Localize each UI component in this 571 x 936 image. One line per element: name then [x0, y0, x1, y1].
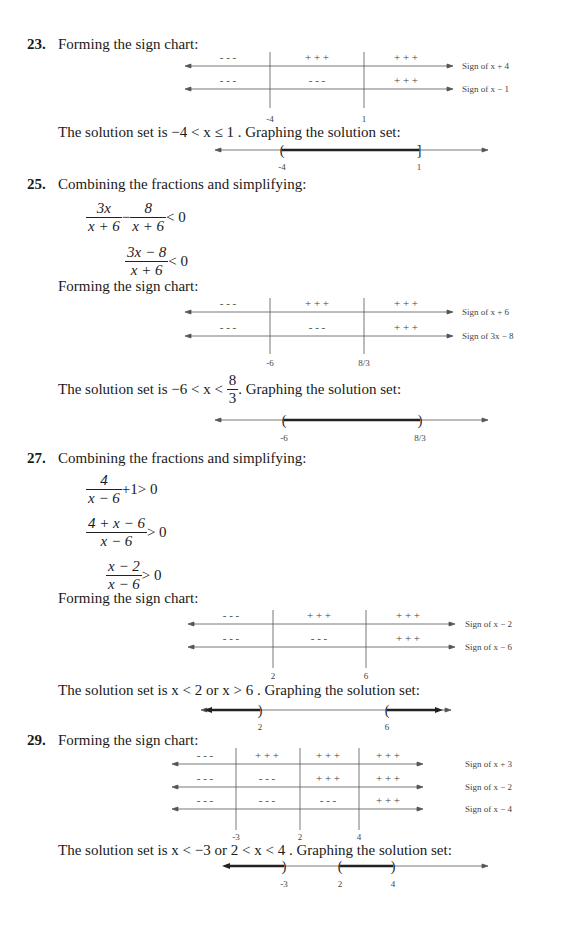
solution-graph-27: )( 2 6 — [200, 700, 500, 736]
svg-text:- - -: - - - — [223, 632, 240, 644]
svg-text:Sign of x − 2: Sign of x − 2 — [465, 619, 512, 629]
problem-25-solution: The solution set is −6 < x < 83. Graphin… — [58, 372, 401, 407]
svg-text:8/3: 8/3 — [414, 433, 426, 443]
problem-29-solution: The solution set is x < −3 or 2 < x < 4 … — [58, 842, 452, 859]
problem-number-23: 23. — [27, 36, 46, 53]
svg-text:- - -: - - - — [259, 794, 276, 806]
sign-cell: - - - — [309, 74, 326, 86]
svg-text:Sign of x − 2: Sign of x − 2 — [465, 782, 512, 792]
problem-27-intro: Combining the fractions and simplifying: — [58, 450, 306, 467]
svg-text:+ + +: + + + — [376, 772, 400, 784]
sign-cell: + + + — [394, 74, 418, 86]
svg-text:+ + +: + + + — [307, 609, 331, 621]
problem-27-solution: The solution set is x < 2 or x > 6 . Gra… — [58, 682, 420, 699]
svg-text:- - -: - - - — [309, 321, 326, 333]
sign-chart-23: - - - + + + + + + - - - - - - + + + -4 1… — [160, 48, 540, 124]
svg-text:): ) — [258, 703, 263, 719]
row-label: Sign of x − 1 — [462, 84, 509, 94]
problem-25-chart-intro: Forming the sign chart: — [58, 278, 198, 295]
svg-text:- - -: - - - — [197, 772, 214, 784]
problem-number-29: 29. — [27, 732, 46, 749]
svg-text:4: 4 — [391, 879, 396, 889]
problem-25-intro: Combining the fractions and simplifying: — [58, 176, 306, 193]
svg-text:+ + +: + + + — [396, 632, 420, 644]
row-label: Sign of x + 4 — [462, 61, 510, 71]
critical-point-label: 1 — [362, 114, 367, 124]
svg-text:- - -: - - - — [220, 321, 237, 333]
svg-text:+ + +: + + + — [316, 749, 340, 761]
svg-text:- - -: - - - — [311, 632, 328, 644]
problem-number-25: 25. — [27, 176, 46, 193]
svg-text:): ) — [418, 413, 423, 429]
svg-text:- - -: - - - — [197, 794, 214, 806]
svg-text:+ + +: + + + — [255, 749, 279, 761]
svg-text:+ + +: + + + — [376, 749, 400, 761]
solution-graph-25: () -6 8/3 — [200, 410, 500, 446]
svg-text:Sign of 3x − 8: Sign of 3x − 8 — [462, 331, 514, 341]
sign-chart-25: - - - + + + + + + - - - - - - + + + -6 8… — [160, 294, 540, 370]
equation-step: 4 + x − 6x − 6> 0 — [86, 515, 167, 550]
svg-text:2: 2 — [258, 722, 263, 732]
svg-text:]: ] — [417, 143, 422, 158]
svg-text:Sign of x + 3: Sign of x + 3 — [465, 759, 513, 769]
sign-cell: + + + — [394, 51, 418, 63]
svg-text:+ + +: + + + — [376, 794, 400, 806]
svg-text:6: 6 — [364, 671, 369, 681]
solution-graph-29: )() -3 2 4 — [200, 860, 500, 896]
svg-text:(: ( — [338, 860, 343, 875]
svg-text:2: 2 — [271, 671, 276, 681]
svg-text:+ + +: + + + — [305, 297, 329, 309]
problem-number-27: 27. — [27, 450, 46, 467]
equation-step: 4x − 6+1> 0 — [86, 472, 157, 507]
sign-chart-27: - - - + + + + + + - - - - - - + + + 2 6 … — [160, 608, 540, 684]
sign-cell: - - - — [220, 74, 237, 86]
svg-text:-3: -3 — [232, 832, 240, 842]
sign-chart-29: - - - + + + + + + + + + - - - - - - + + … — [160, 746, 540, 846]
svg-text:- - -: - - - — [223, 609, 240, 621]
svg-text:(: ( — [385, 703, 390, 719]
equation-step: 3x − 8x + 6< 0 — [125, 244, 188, 279]
svg-text:8/3: 8/3 — [358, 358, 370, 368]
svg-text:): ) — [391, 860, 396, 875]
svg-text:- - -: - - - — [259, 772, 276, 784]
svg-text:1: 1 — [417, 162, 422, 172]
sign-cell: + + + — [305, 51, 329, 63]
svg-text:Sign of x + 6: Sign of x + 6 — [462, 307, 510, 317]
equation-step: x − 2x − 6> 0 — [106, 558, 162, 593]
svg-text:+ + +: + + + — [316, 772, 340, 784]
critical-point-label: -4 — [266, 114, 274, 124]
svg-text:2: 2 — [338, 879, 343, 889]
svg-text:+ + +: + + + — [396, 609, 420, 621]
svg-text:- - -: - - - — [320, 794, 337, 806]
svg-text:- - -: - - - — [197, 749, 214, 761]
svg-text:-3: -3 — [280, 879, 288, 889]
svg-text:-6: -6 — [280, 433, 288, 443]
svg-text:-4: -4 — [278, 162, 286, 172]
svg-text:Sign of x − 6: Sign of x − 6 — [465, 642, 513, 652]
svg-text:-6: -6 — [266, 358, 274, 368]
svg-text:(: ( — [282, 413, 287, 429]
sign-cell: - - - — [220, 51, 237, 63]
svg-text:6: 6 — [385, 722, 390, 732]
svg-text:Sign of x − 4: Sign of x − 4 — [465, 804, 513, 814]
svg-text:+ + +: + + + — [394, 297, 418, 309]
equation-step: 3xx + 6−8x + 6< 0 — [86, 200, 186, 235]
svg-text:2: 2 — [298, 832, 303, 842]
problem-23-solution: The solution set is −4 < x ≤ 1 . Graphin… — [58, 124, 401, 141]
svg-text:(: ( — [280, 143, 285, 159]
svg-text:+ + +: + + + — [394, 321, 418, 333]
svg-text:): ) — [282, 860, 287, 875]
svg-text:4: 4 — [357, 832, 362, 842]
solution-graph-23: (] -4 1 — [200, 140, 500, 176]
problem-27-chart-intro: Forming the sign chart: — [58, 590, 198, 607]
svg-text:- - -: - - - — [220, 297, 237, 309]
